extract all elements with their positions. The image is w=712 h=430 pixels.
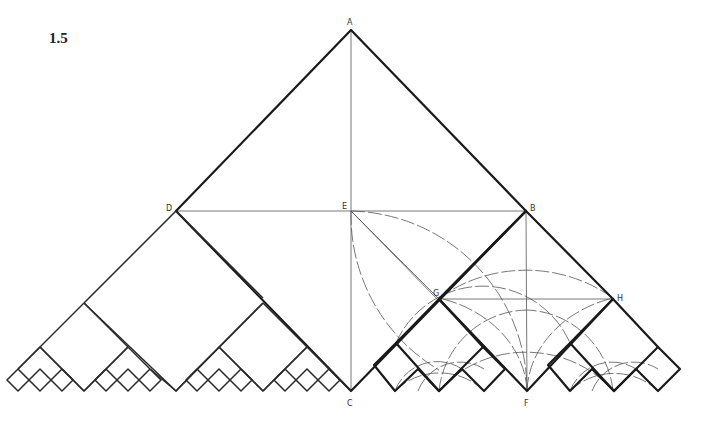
edge [62,369,106,391]
edge [274,369,296,391]
edge [29,380,51,391]
arc-left-small-2 [395,362,462,391]
edge [208,380,230,391]
edge [241,369,285,391]
edge [139,369,161,391]
label-F: F [524,399,529,408]
construction-lines [176,30,613,391]
line-B-F [526,211,527,391]
edge [285,347,329,369]
edge [106,347,150,369]
edge [296,380,318,391]
edge [117,380,139,391]
arc-right-small-2 [570,362,636,391]
label-D: D [166,204,172,213]
geometric-construction-diagram: A D E B G H C F [0,0,712,430]
label-G: G [433,289,439,298]
edge [84,303,128,347]
edge [230,369,252,391]
edge [84,303,263,391]
edge [176,211,263,298]
edge [219,303,263,347]
label-C: C [347,399,353,408]
edge [84,211,176,303]
edge [263,303,307,347]
arc-cross-2 [527,310,613,391]
edge [285,369,329,380]
label-H: H [617,294,623,303]
edge [95,369,117,391]
edge [374,299,505,391]
arc-mid [396,286,570,343]
edge [51,369,73,391]
arc-right-small [570,373,658,391]
arc-left-small-3 [418,362,484,391]
edge [18,347,62,369]
label-B: B [530,204,536,213]
edge [197,369,241,380]
edge [7,369,29,391]
edge [197,347,241,369]
edge [106,369,150,380]
edge [318,369,340,391]
edge [548,299,680,391]
label-E: E [342,202,347,211]
edge [186,369,208,391]
label-A: A [347,18,353,27]
edge [18,369,62,380]
